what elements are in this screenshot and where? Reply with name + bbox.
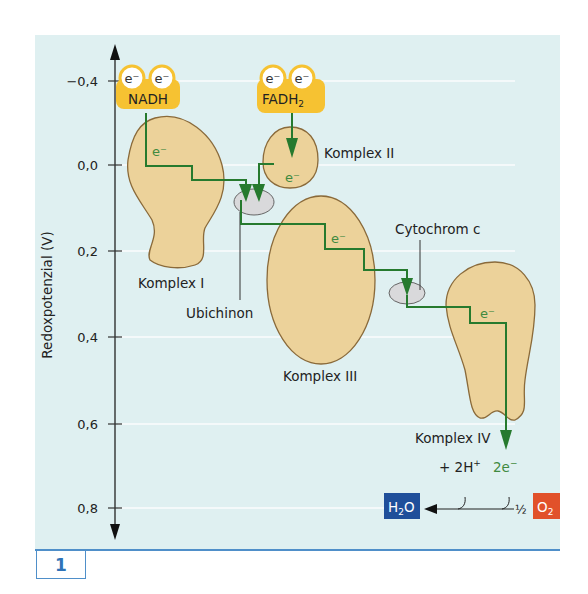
- nadh-carrier: e⁻ e⁻ NADH: [116, 66, 180, 109]
- y-axis-label: Redoxpotenzial (V): [39, 231, 55, 358]
- arrow-down-icon: [500, 430, 512, 450]
- half-label: ½: [515, 503, 527, 517]
- nadh-label: NADH: [128, 91, 168, 107]
- electron-label: e⁻: [480, 306, 495, 321]
- electrons-label: 2e−: [493, 458, 517, 475]
- electron-transport-chain-diagram: −0,4 0,0 0,2 0,4 0,6 0,8 Redoxpotenzial …: [0, 0, 588, 594]
- komplex-iii-label: Komplex III: [283, 368, 357, 384]
- y-tick-label: 0,0: [77, 158, 98, 173]
- electron-label: e⁻: [285, 170, 300, 185]
- electron-label: e⁻: [295, 71, 310, 86]
- electron-label: e⁻: [152, 144, 167, 159]
- komplex-i-shape: [128, 116, 224, 267]
- fadh2-label: FADH2: [262, 91, 304, 109]
- komplex-iv-label: Komplex IV: [415, 430, 491, 446]
- electron-label: e⁻: [331, 231, 346, 246]
- komplex-iv-shape: [446, 262, 535, 420]
- ubichinon-label: Ubichinon: [186, 305, 253, 321]
- axis-arrow-up-icon: [110, 44, 120, 60]
- electron-label: e⁻: [266, 71, 281, 86]
- electron-label: e⁻: [125, 71, 140, 86]
- y-tick-label: 0,4: [77, 330, 98, 345]
- water-formation-reaction: + 2H+ 2e− ½ H2O O2: [384, 458, 560, 519]
- komplex-i-label: Komplex I: [138, 275, 204, 291]
- electron-label: e⁻: [155, 71, 170, 86]
- arrow-left-icon: [424, 504, 437, 514]
- y-tick-label: 0,8: [77, 501, 98, 516]
- y-axis: −0,4 0,0 0,2 0,4 0,6 0,8 Redoxpotenzial …: [39, 44, 122, 540]
- axis-arrow-down-icon: [110, 524, 120, 540]
- proton-label: + 2H+: [439, 458, 481, 475]
- y-tick-label: 0,2: [77, 244, 98, 259]
- y-tick-label: 0,6: [77, 417, 98, 432]
- cytochrom-c-label: Cytochrom c: [395, 221, 480, 237]
- komplex-iii-shape: [267, 196, 375, 364]
- komplex-ii-label: Komplex II: [324, 145, 394, 161]
- fadh2-carrier: e⁻ e⁻ FADH2: [257, 66, 325, 113]
- y-tick-label: −0,4: [66, 74, 98, 89]
